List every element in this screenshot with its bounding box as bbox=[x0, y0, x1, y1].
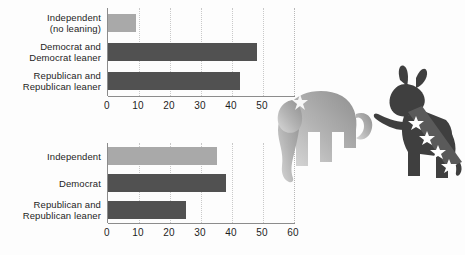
bar-row bbox=[108, 14, 136, 32]
plot-area-bottom bbox=[107, 143, 294, 223]
bar-row bbox=[108, 72, 240, 90]
bar bbox=[108, 72, 240, 90]
x-tick-label: 60 bbox=[287, 227, 299, 238]
category-label-column-top: Independent(no leaning)Democrat andDemoc… bbox=[0, 8, 101, 120]
category-label-line: Republican leaner bbox=[0, 81, 101, 92]
category-label-line: Republican and bbox=[0, 199, 101, 210]
x-tick-label: 0 bbox=[104, 100, 110, 111]
plot-area-top bbox=[107, 8, 294, 96]
gridline bbox=[263, 8, 264, 96]
x-axis-ticks-top: 0102030405060 bbox=[107, 100, 293, 114]
category-label: Democrat andDemocrat leaner bbox=[0, 41, 101, 63]
category-label-line: Independent bbox=[0, 12, 101, 23]
category-label-line: Democrat bbox=[0, 178, 101, 189]
category-label: Independent bbox=[0, 151, 101, 162]
category-label-line: (no leaning) bbox=[0, 23, 101, 34]
plot-top bbox=[107, 8, 294, 96]
bar bbox=[108, 174, 226, 192]
x-tick-label: 40 bbox=[225, 100, 237, 111]
x-tick-label: 50 bbox=[256, 100, 268, 111]
x-tick-label: 10 bbox=[132, 227, 144, 238]
chart-page: Independent(no leaning)Democrat andDemoc… bbox=[0, 0, 465, 255]
x-axis-line bbox=[108, 96, 295, 97]
bar-row bbox=[108, 201, 186, 219]
gridline bbox=[263, 143, 264, 223]
bar-row bbox=[108, 43, 257, 61]
category-label: Democrat bbox=[0, 178, 101, 189]
bar bbox=[108, 201, 186, 219]
x-tick-label: 30 bbox=[194, 100, 206, 111]
category-label-column-bottom: IndependentDemocratRepublican andRepubli… bbox=[0, 143, 101, 253]
category-label-line: Independent bbox=[0, 151, 101, 162]
x-tick-label: 30 bbox=[194, 227, 206, 238]
bar bbox=[108, 147, 217, 165]
bar-row bbox=[108, 174, 226, 192]
category-label-line: Democrat leaner bbox=[0, 52, 101, 63]
category-label: Republican andRepublican leaner bbox=[0, 70, 101, 92]
plot-bottom bbox=[107, 143, 294, 223]
gridline bbox=[232, 143, 233, 223]
x-tick-label: 40 bbox=[225, 227, 237, 238]
category-label-line: Republican and bbox=[0, 70, 101, 81]
x-tick-label: 20 bbox=[163, 100, 175, 111]
category-label-line: Republican leaner bbox=[0, 210, 101, 221]
x-tick-label: 60 bbox=[287, 100, 299, 111]
x-tick-label: 20 bbox=[163, 227, 175, 238]
bar-chart-bottom: IndependentDemocratRepublican andRepubli… bbox=[0, 143, 465, 253]
bar-chart-top: Independent(no leaning)Democrat andDemoc… bbox=[0, 8, 465, 120]
gridline bbox=[294, 143, 295, 223]
bar bbox=[108, 14, 136, 32]
category-label: Independent(no leaning) bbox=[0, 12, 101, 34]
x-tick-label: 50 bbox=[256, 227, 268, 238]
gridline bbox=[294, 8, 295, 96]
bar bbox=[108, 43, 257, 61]
category-label: Republican andRepublican leaner bbox=[0, 199, 101, 221]
x-tick-label: 10 bbox=[132, 100, 144, 111]
x-axis-ticks-bottom: 0102030405060 bbox=[107, 227, 293, 241]
x-tick-label: 0 bbox=[104, 227, 110, 238]
bar-row bbox=[108, 147, 217, 165]
x-axis-line bbox=[108, 223, 295, 224]
category-label-line: Democrat and bbox=[0, 41, 101, 52]
